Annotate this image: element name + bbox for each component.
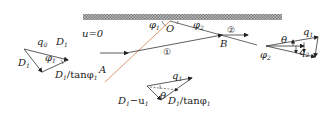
point-B-label: B [219,38,227,49]
flow-region-1 [126,35,222,53]
middle-q1-label: q1 [172,70,182,82]
point-O-label: O [166,23,174,34]
left-bottom-label: D1/tanφ1 [54,69,97,81]
right-q2-label: q2 [299,46,309,58]
angle-phi2-label: φ2 [193,19,204,31]
left-phi1-label: φ1 [45,52,56,64]
left-D1-top-label: D1 [55,36,68,48]
region-2-label: ② [227,25,235,35]
right-q1-label: q1 [303,26,313,38]
reflected-shock-line [170,21,257,45]
region-1-label: ① [163,47,171,57]
middle-left-label: D1−u1 [117,95,149,107]
incident-shock-line [105,21,170,82]
wall [83,14,282,20]
angle-phi1-label: φ1 [149,19,160,31]
oblique-shock-diagram: u=0 O A B φ1 φ2 ① ② q0 D1 D1 φ1 D1/tanφ1… [0,0,332,119]
point-A-label: A [98,64,106,75]
middle-right-label: D1/tanφ1 [167,95,210,107]
right-theta-label: θ [281,34,287,45]
right-phi2-label: φ2 [260,49,271,61]
wall-velocity-label: u=0 [82,28,104,39]
left-q0-label: q0 [37,36,47,48]
right-velocity-triangle [266,37,318,57]
middle-theta-label: θ [160,90,166,101]
left-D1-left-label: D1 [17,57,30,69]
